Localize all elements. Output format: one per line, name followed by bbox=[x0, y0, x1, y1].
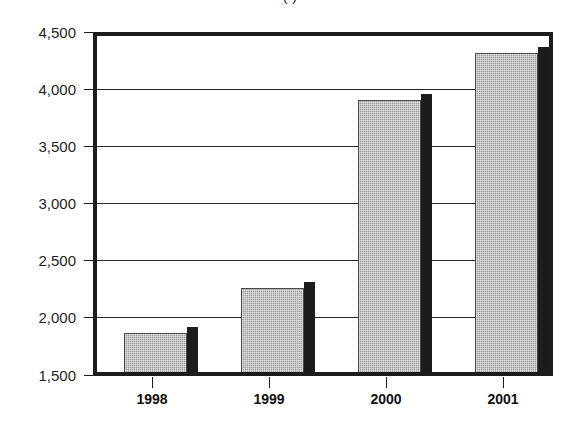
y-axis-label-3000: 3,000 bbox=[14, 196, 76, 211]
x-axis-tick-2000 bbox=[386, 377, 387, 388]
x-axis-label-1999: 1999 bbox=[229, 392, 309, 406]
y-axis-tick-4500 bbox=[84, 32, 93, 33]
x-axis-label-2001: 2001 bbox=[463, 392, 543, 406]
bar-group-1998[interactable] bbox=[124, 30, 227, 374]
plot-area bbox=[93, 32, 553, 376]
y-axis-tick-3500 bbox=[84, 146, 93, 147]
y-axis-tick-2000 bbox=[84, 317, 93, 318]
bar-chart-figure: ( ) 4,500 4,000 3,500 3,000 2,500 2,000 … bbox=[0, 0, 580, 433]
x-axis-tick-1998 bbox=[152, 377, 153, 388]
y-axis-tick-2500 bbox=[84, 260, 93, 261]
x-axis-tick-2001 bbox=[503, 377, 504, 388]
bar-side-2000 bbox=[421, 94, 432, 374]
bar-2000[interactable] bbox=[358, 100, 421, 374]
bar-2001[interactable] bbox=[475, 53, 538, 374]
x-axis-label-2000: 2000 bbox=[346, 392, 426, 406]
y-axis-label-4500: 4,500 bbox=[14, 25, 76, 40]
y-axis-label-2500: 2,500 bbox=[14, 253, 76, 268]
bar-1999[interactable] bbox=[241, 288, 304, 374]
y-axis-label-1500: 1,500 bbox=[14, 368, 76, 383]
bar-side-2001 bbox=[538, 47, 549, 374]
y-axis-tick-1500 bbox=[84, 375, 93, 376]
y-axis-label-3500: 3,500 bbox=[14, 139, 76, 154]
x-axis-tick-1999 bbox=[269, 377, 270, 388]
y-axis-tick-4000 bbox=[84, 89, 93, 90]
y-axis-label-2000: 2,000 bbox=[14, 310, 76, 325]
bar-group-2001[interactable] bbox=[475, 30, 578, 374]
y-axis-label-4000: 4,000 bbox=[14, 82, 76, 97]
x-axis-label-1998: 1998 bbox=[112, 392, 192, 406]
y-axis-tick-3000 bbox=[84, 203, 93, 204]
bar-side-1999 bbox=[304, 282, 315, 374]
bar-group-1999[interactable] bbox=[241, 30, 344, 374]
bar-1998[interactable] bbox=[124, 333, 187, 374]
bar-side-1998 bbox=[187, 327, 198, 374]
chart-title: ( ) bbox=[0, 0, 580, 5]
bar-group-2000[interactable] bbox=[358, 30, 461, 374]
